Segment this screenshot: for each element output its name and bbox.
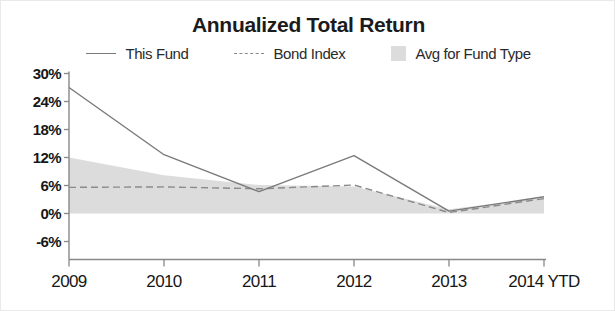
y-axis-tick-label: -6% bbox=[7, 233, 61, 250]
y-axis-tick-label: 0% bbox=[7, 205, 61, 222]
x-axis-tick-label: 2014 YTD bbox=[489, 272, 599, 292]
y-axis-tick-label: 18% bbox=[7, 121, 61, 138]
x-axis-tick-label: 2012 bbox=[299, 272, 409, 292]
y-axis-tick-label: 12% bbox=[7, 149, 61, 166]
avg-for-fund-type-band bbox=[69, 158, 544, 214]
x-axis-tick-label: 2013 bbox=[394, 272, 504, 292]
x-axis-tick-label: 2010 bbox=[109, 272, 219, 292]
y-axis-tick-label: 30% bbox=[7, 65, 61, 82]
x-axis-tick-label: 2011 bbox=[204, 272, 314, 292]
x-axis-tick-label: 2009 bbox=[14, 272, 124, 292]
y-axis-tick-label: 24% bbox=[7, 93, 61, 110]
y-axis-tick-label: 6% bbox=[7, 177, 61, 194]
chart-container: Annualized Total Return This Fund Bond I… bbox=[0, 0, 615, 311]
plot-area bbox=[1, 1, 615, 311]
axes bbox=[64, 72, 546, 267]
